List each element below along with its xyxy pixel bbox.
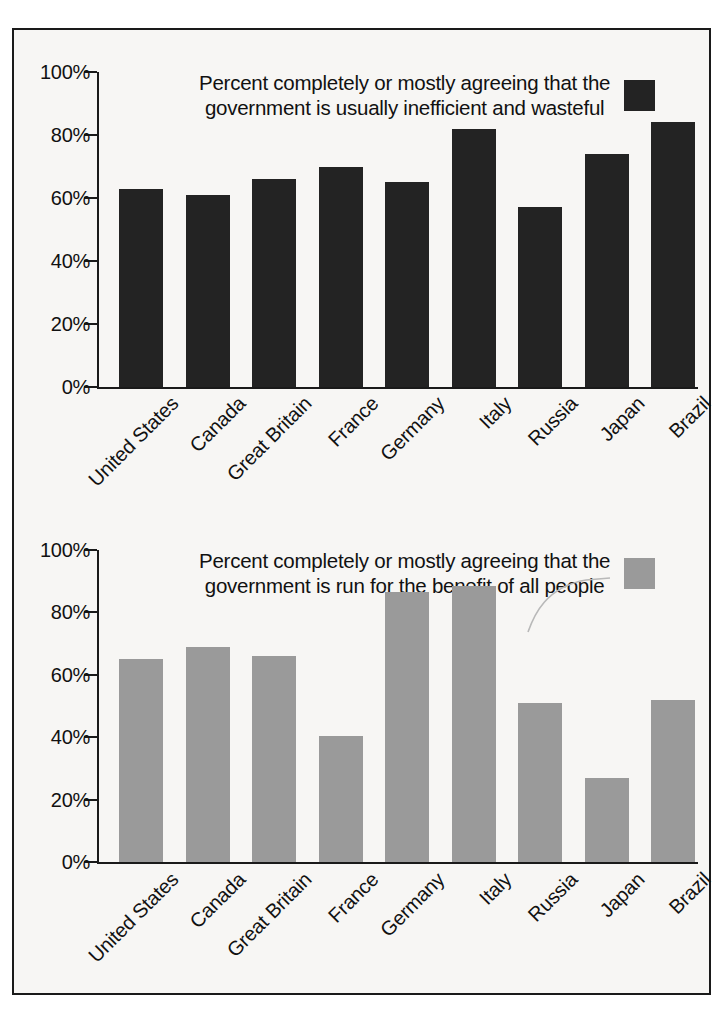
bar — [186, 195, 230, 387]
bar — [319, 736, 363, 862]
y-axis-tick-label: 80% — [51, 601, 90, 624]
bar — [518, 207, 562, 387]
y-axis-tick-label: 60% — [51, 187, 90, 210]
y-axis-tick-label: 40% — [51, 726, 90, 749]
bar — [319, 167, 363, 388]
x-axis-category-labels: United StatesCanadaGreat BritainFranceGe… — [99, 868, 700, 988]
bar — [452, 129, 496, 387]
bar — [585, 778, 629, 862]
x-axis-category-label: Germany — [376, 868, 449, 941]
x-axis-line — [97, 862, 698, 864]
bar — [119, 659, 163, 862]
x-axis-category-label: United States — [84, 392, 183, 491]
bar — [651, 700, 695, 862]
x-axis-category-label: Japan — [595, 392, 649, 446]
y-axis-tick-label: 60% — [51, 663, 90, 686]
bar — [385, 182, 429, 387]
bar — [252, 179, 296, 387]
bar — [651, 122, 695, 387]
x-axis-category-label: Brazil — [664, 392, 715, 443]
y-axis-tick-label: 20% — [51, 313, 90, 336]
plot-area-inefficient-wasteful: 0%20%40%60%80%100% — [97, 72, 698, 387]
x-axis-category-label: Russia — [524, 392, 583, 451]
bar — [385, 592, 429, 862]
bar-series-inefficient-wasteful — [99, 72, 698, 387]
bar-series-benefit-all-people — [99, 550, 698, 862]
bar — [252, 656, 296, 862]
bar — [119, 189, 163, 387]
x-axis-category-label: Canada — [185, 392, 250, 457]
x-axis-line — [97, 387, 698, 389]
x-axis-category-label: France — [323, 868, 382, 927]
x-axis-category-label: Italy — [474, 392, 515, 433]
bar — [186, 647, 230, 862]
bar — [585, 154, 629, 387]
bar — [518, 703, 562, 862]
y-axis-tick-label: 0% — [62, 851, 90, 874]
x-axis-category-label: France — [323, 392, 382, 451]
y-axis-tick-label: 0% — [62, 376, 90, 399]
y-axis-tick-label: 40% — [51, 250, 90, 273]
x-axis-category-label: Russia — [524, 868, 583, 927]
x-axis-category-label: Japan — [595, 868, 649, 922]
chart-panel-benefit-all-people: Percent completely or mostly agreeing th… — [14, 513, 713, 997]
figure-frame: Percent completely or mostly agreeing th… — [12, 28, 711, 995]
x-axis-category-label: Italy — [474, 868, 515, 909]
x-axis-category-label: Canada — [185, 868, 250, 933]
y-axis-tick-label: 20% — [51, 788, 90, 811]
y-axis-tick-label: 100% — [40, 539, 90, 562]
x-axis-category-label: Germany — [376, 392, 449, 465]
chart-panel-inefficient-wasteful: Percent completely or mostly agreeing th… — [14, 30, 713, 513]
x-axis-category-label: Brazil — [664, 868, 715, 919]
bar — [452, 586, 496, 862]
y-axis-tick-label: 100% — [40, 61, 90, 84]
plot-area-benefit-all-people: 0%20%40%60%80%100% — [97, 550, 698, 862]
y-axis-tick-label: 80% — [51, 124, 90, 147]
x-axis-category-labels: United StatesCanadaGreat BritainFranceGe… — [99, 392, 700, 512]
x-axis-category-label: United States — [84, 868, 183, 967]
